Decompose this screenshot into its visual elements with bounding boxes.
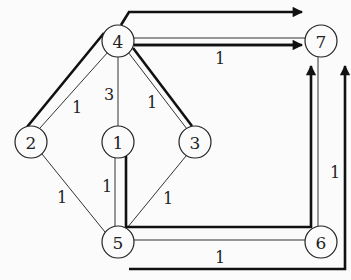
node-3: 3 (179, 126, 211, 158)
edge-weight-3-5: 1 (163, 189, 173, 208)
graph-diagram: 113111111 1234567 (0, 0, 351, 280)
flow-path-2-4-7 (27, 33, 298, 127)
edge-3-5 (127, 156, 186, 228)
edge-2-5 (42, 154, 105, 232)
edge-weight-6-7: 1 (330, 163, 340, 182)
nodes-layer: 1234567 (15, 25, 337, 258)
node-5: 5 (102, 226, 134, 258)
edge-4-2 (40, 52, 108, 128)
node-7: 7 (305, 25, 337, 57)
edge-weight-4-7: 1 (215, 49, 225, 68)
flow-path-4-3 (133, 48, 192, 126)
node-1: 1 (102, 126, 134, 158)
edge-weight-1-5: 1 (102, 177, 112, 196)
edge-weight-2-5: 1 (57, 188, 67, 207)
edge-4-3 (128, 52, 187, 129)
node-label: 7 (316, 32, 327, 52)
flow-path-1-5-6-7 (126, 66, 311, 227)
node-label: 5 (113, 233, 124, 253)
edge-weight-4-2: 1 (72, 98, 82, 117)
edge-weight-5-6: 1 (215, 248, 225, 267)
flow-path-top (121, 12, 302, 25)
node-2: 2 (15, 126, 47, 158)
node-label: 4 (113, 32, 124, 52)
edge-weight-4-3: 1 (147, 93, 157, 112)
node-label: 1 (113, 133, 124, 153)
node-6: 6 (305, 226, 337, 258)
node-label: 3 (190, 133, 201, 153)
node-4: 4 (102, 25, 134, 57)
edge-weight-4-1: 3 (104, 85, 114, 104)
node-label: 6 (316, 233, 327, 253)
node-label: 2 (26, 133, 37, 153)
